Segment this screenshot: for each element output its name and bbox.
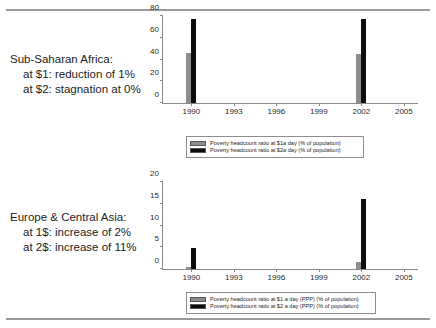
- legend-item: Poverty headcount ratio at $2a day (% of…: [190, 147, 359, 154]
- caption-line-1: Sub-Saharan Africa:: [10, 52, 141, 67]
- y-axis-tick-mark: [160, 246, 163, 247]
- y-axis-tick-mark: [160, 181, 163, 182]
- plot-area: 020406080199019931996199920022005: [162, 16, 418, 104]
- x-axis-tick-label: 1990: [182, 273, 200, 282]
- y-axis-tick-mark: [160, 80, 163, 81]
- y-axis-tick-mark: [160, 268, 163, 269]
- x-axis-tick-mark: [404, 269, 405, 272]
- legend-label: Poverty headcount ratio at $1a day (% of…: [210, 140, 341, 147]
- bar: [361, 19, 366, 103]
- y-axis-tick-mark: [160, 15, 163, 16]
- y-axis-tick-label: 10: [150, 212, 159, 221]
- page-root: Sub-Saharan Africa: at $1: reduction of …: [0, 0, 436, 328]
- caption-line-3: at $2: stagnation at 0%: [10, 82, 141, 97]
- x-axis-tick-mark: [191, 269, 192, 272]
- x-axis-tick-label: 1999: [310, 273, 328, 282]
- y-axis-tick-mark: [160, 225, 163, 226]
- bar: [191, 19, 196, 103]
- legend-label: Poverty headcount ratio at $2a day (% of…: [210, 147, 341, 154]
- legend-swatch-series1-icon: [190, 297, 206, 302]
- y-axis-tick-label: 60: [150, 24, 159, 33]
- x-axis-tick-label: 1999: [310, 107, 328, 116]
- legend-item: Poverty headcount ratio at $1 a day (PPP…: [190, 296, 371, 303]
- x-axis-tick-mark: [276, 103, 277, 106]
- bar: [191, 248, 196, 269]
- legend-label: Poverty headcount ratio at $1 a day (PPP…: [210, 296, 359, 303]
- x-axis-tick-mark: [234, 269, 235, 272]
- legend-item: Poverty headcount ratio at $1a day (% of…: [190, 140, 359, 147]
- y-axis-tick-mark: [160, 102, 163, 103]
- x-axis-tick-mark: [319, 269, 320, 272]
- x-axis-tick-label: 1993: [225, 273, 243, 282]
- x-axis-tick-label: 1993: [225, 107, 243, 116]
- x-axis-tick-mark: [319, 103, 320, 106]
- caption-block: Sub-Saharan Africa: at $1: reduction of …: [10, 52, 141, 97]
- y-axis-tick-label: 5: [155, 234, 159, 243]
- panel-sub-saharan-africa: Sub-Saharan Africa: at $1: reduction of …: [0, 12, 436, 162]
- legend-swatch-series2-icon: [190, 148, 206, 153]
- bottom-divider-rule: [6, 318, 430, 320]
- legend-swatch-series2-icon: [190, 304, 206, 309]
- legend-item: Poverty headcount ratio at $2 a day (PPP…: [190, 303, 371, 310]
- panel-europe-central-asia: Europe & Central Asia: at 1$: increase o…: [0, 178, 436, 318]
- x-axis-tick-label: 1996: [267, 273, 285, 282]
- caption-block: Europe & Central Asia: at 1$: increase o…: [10, 210, 137, 255]
- x-axis-tick-label: 1996: [267, 107, 285, 116]
- x-axis-tick-label: 1990: [182, 107, 200, 116]
- x-axis-tick-label: 2005: [395, 107, 413, 116]
- caption-line-1: Europe & Central Asia:: [10, 210, 137, 225]
- plot-area: 05101520199019931996199920022005: [162, 182, 418, 270]
- chart-legend: Poverty headcount ratio at $1 a day (PPP…: [186, 292, 376, 314]
- y-axis-tick-label: 80: [150, 3, 159, 12]
- top-divider-rule: [6, 9, 430, 11]
- x-axis-tick-mark: [361, 269, 362, 272]
- y-axis-tick-mark: [160, 59, 163, 60]
- x-axis-tick-mark: [276, 269, 277, 272]
- bar: [361, 199, 366, 269]
- y-axis-tick-mark: [160, 203, 163, 204]
- y-axis-tick-label: 20: [150, 169, 159, 178]
- chart-legend: Poverty headcount ratio at $1a day (% of…: [186, 136, 364, 158]
- x-axis-tick-mark: [361, 103, 362, 106]
- x-axis-tick-mark: [191, 103, 192, 106]
- x-axis-tick-mark: [234, 103, 235, 106]
- x-axis-tick-label: 2002: [352, 107, 370, 116]
- clipped-text-above: [8, 0, 68, 6]
- y-axis-tick-label: 0: [155, 90, 159, 99]
- y-axis-tick-label: 40: [150, 46, 159, 55]
- y-axis-tick-label: 0: [155, 256, 159, 265]
- x-axis-tick-mark: [404, 103, 405, 106]
- caption-line-2: at $1: reduction of 1%: [10, 67, 141, 82]
- y-axis-tick-label: 20: [150, 68, 159, 77]
- legend-swatch-series1-icon: [190, 141, 206, 146]
- y-axis-tick-label: 15: [150, 190, 159, 199]
- y-axis-tick-mark: [160, 37, 163, 38]
- chart-sub-saharan-africa: 020406080199019931996199920022005: [132, 12, 424, 120]
- chart-europe-central-asia: 05101520199019931996199920022005: [132, 178, 424, 286]
- caption-line-3: at 2$: increase of 11%: [10, 240, 137, 255]
- legend-label: Poverty headcount ratio at $2 a day (PPP…: [210, 303, 359, 310]
- caption-line-2: at 1$: increase of 2%: [10, 225, 137, 240]
- x-axis-tick-label: 2005: [395, 273, 413, 282]
- x-axis-tick-label: 2002: [352, 273, 370, 282]
